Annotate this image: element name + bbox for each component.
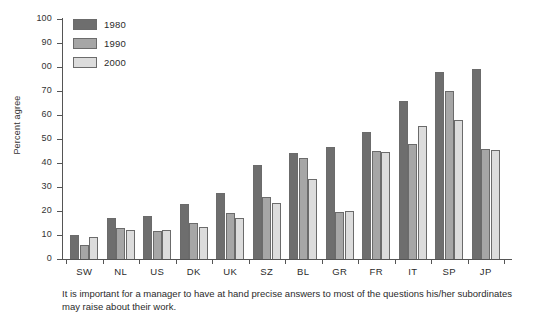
y-axis-tick-label: 20 (22, 206, 52, 216)
y-axis-tick-label: 90 (22, 38, 52, 48)
x-axis-tick (139, 260, 140, 264)
bar (472, 69, 481, 259)
bar (418, 126, 427, 259)
bar (445, 91, 454, 259)
figure-caption: It is important for a manager to have at… (62, 288, 517, 313)
bar (262, 197, 271, 259)
bar (372, 151, 381, 259)
bar (408, 144, 417, 259)
bar (226, 213, 235, 259)
bar (299, 158, 308, 259)
bar (216, 193, 225, 259)
bar (308, 179, 317, 259)
bar (362, 132, 371, 259)
x-axis-tick (358, 260, 359, 264)
x-axis-tick (176, 260, 177, 264)
x-axis-tick (249, 260, 250, 264)
y-axis-tick-label: 40 (22, 158, 52, 168)
x-axis-tick-label: JP (464, 266, 508, 277)
y-axis-tick-label-text: 90 (26, 38, 52, 47)
bar (253, 165, 262, 259)
legend-swatch (73, 57, 97, 68)
legend-swatch (73, 19, 97, 30)
y-axis-tick-label: 70 (22, 86, 52, 96)
legend-label: 1980 (104, 20, 126, 30)
y-axis-tick-label: 100 (22, 14, 52, 24)
legend-label: 2000 (104, 58, 126, 68)
bar-group (326, 19, 355, 259)
y-axis-tick-label: 10 (22, 230, 52, 240)
y-axis-tick-label: 30 (22, 182, 52, 192)
bar-group (362, 19, 391, 259)
legend-item: 1980 (73, 17, 151, 32)
x-axis-tick (322, 260, 323, 264)
bar (89, 237, 98, 259)
bar (180, 204, 189, 259)
bar-group (253, 19, 282, 259)
bar (189, 223, 198, 259)
chart-legend: 198019902000 (73, 17, 151, 74)
x-axis-tick (285, 260, 286, 264)
y-axis-tick-label-text: 0 (26, 254, 52, 263)
bar (153, 231, 162, 259)
y-axis-tick-label: 60 (22, 110, 52, 120)
y-axis-tick-label-text: 20 (26, 206, 52, 215)
y-axis-tick (57, 259, 63, 260)
legend-item: 1990 (73, 36, 151, 51)
x-axis-tick (103, 260, 104, 264)
bar (335, 212, 344, 259)
x-axis-tick (395, 260, 396, 264)
y-axis-tick-label: 0 (22, 254, 52, 264)
legend-item: 2000 (73, 55, 151, 70)
bar (345, 211, 354, 259)
x-axis-tick (431, 260, 432, 264)
bar-group (435, 19, 464, 259)
bar-group (216, 19, 245, 259)
chart-figure: Percent agree 0102030405060700090100 SWN… (0, 0, 537, 318)
bar-group (289, 19, 318, 259)
bar (381, 152, 390, 259)
y-axis-tick-label-text: 10 (26, 230, 52, 239)
x-axis-tick (504, 260, 505, 264)
y-axis-tick-label-text: 50 (26, 134, 52, 143)
y-axis-tick-label-text: 70 (26, 86, 52, 95)
y-axis-tick-label: 50 (22, 134, 52, 144)
bar-group (472, 19, 501, 259)
bar-group (399, 19, 428, 259)
bar (235, 218, 244, 259)
bar (107, 218, 116, 259)
y-axis-tick-label-text: 40 (26, 158, 52, 167)
bar (491, 150, 500, 259)
bar (199, 227, 208, 259)
bar (326, 147, 335, 259)
y-axis-tick-label: 00 (22, 62, 52, 72)
bar (399, 101, 408, 259)
bar (126, 230, 135, 259)
y-axis-tick-label-text: 100 (26, 14, 52, 23)
legend-label: 1990 (104, 39, 126, 49)
bar (116, 228, 125, 259)
bar (70, 235, 79, 259)
y-axis-tick-label-text: 30 (26, 182, 52, 191)
y-axis-tick-label-text: 00 (26, 62, 52, 71)
legend-swatch (73, 38, 97, 49)
x-axis-tick (468, 260, 469, 264)
bar (162, 230, 171, 259)
bar-group (180, 19, 209, 259)
bar (435, 72, 444, 259)
bar (143, 216, 152, 259)
bar (289, 153, 298, 259)
bar (454, 120, 463, 259)
y-axis-tick-label-text: 60 (26, 110, 52, 119)
x-axis-tick (212, 260, 213, 264)
bar (80, 245, 89, 259)
y-axis-title: Percent agree (12, 77, 22, 173)
x-axis-tick (66, 260, 67, 264)
bar (272, 203, 281, 259)
bar (481, 149, 490, 259)
